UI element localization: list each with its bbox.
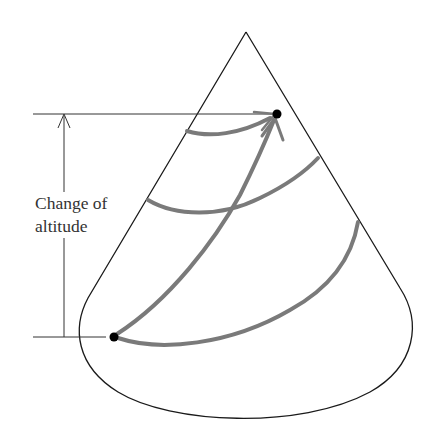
end-point xyxy=(273,110,282,119)
direct-path-arrow xyxy=(117,120,274,334)
altitude-label-line1: Change of xyxy=(35,192,107,215)
altitude-label-line2: altitude xyxy=(35,215,107,238)
altitude-label: Change of altitude xyxy=(33,192,109,238)
cone-outline xyxy=(79,32,412,418)
start-point xyxy=(110,333,119,342)
spiral-segment-top xyxy=(187,118,270,134)
spiral-segment-bottom xyxy=(118,222,358,345)
